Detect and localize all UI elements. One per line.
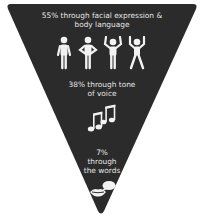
- speech-bubble-icon: [102, 181, 116, 192]
- section-3-line-1: 7%: [72, 148, 132, 157]
- section-2-label: 38% through tone of voice: [40, 80, 164, 98]
- section-1-label: 55% through facial expression & body lan…: [20, 11, 184, 29]
- person-hands-on-hips-icon: [80, 37, 96, 68]
- section-3-line-3: the words: [72, 166, 132, 175]
- speech-lips-icon: [89, 180, 117, 198]
- person-arms-up-icon: [105, 37, 121, 68]
- section-3-label: 7% through the words: [72, 148, 132, 175]
- music-notes-icon: [87, 104, 119, 134]
- section-2-line-1: 38% through tone: [40, 80, 164, 89]
- section-3-line-2: through: [72, 157, 132, 166]
- section-1-line-2: body language: [20, 20, 184, 29]
- people-body-language-icon: [55, 36, 150, 70]
- section-1-line-1: 55% through facial expression &: [20, 11, 184, 20]
- person-standing-icon: [58, 37, 70, 68]
- section-2-line-2: of voice: [40, 89, 164, 98]
- lips-icon: [90, 189, 106, 197]
- person-jumping-icon: [130, 37, 144, 68]
